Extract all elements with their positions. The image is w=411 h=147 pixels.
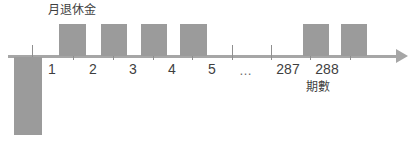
period-label: 288 [312, 60, 342, 78]
period-label: 4 [162, 60, 182, 78]
period-label: 3 [123, 60, 143, 78]
bar [59, 24, 86, 56]
bar [341, 24, 367, 56]
ellipsis-label: … [233, 62, 259, 80]
cash-flow-diagram: 月退休金 12345287288… 期數 [0, 0, 411, 147]
period-label: 287 [273, 60, 303, 78]
axis-tick [271, 45, 272, 60]
x-axis-title: 期數 [306, 79, 330, 95]
bar [101, 24, 127, 56]
series-label: 月退休金 [48, 2, 96, 18]
bar [180, 24, 207, 56]
period-label: 1 [42, 60, 62, 78]
bar [303, 24, 329, 56]
axis-tick [232, 45, 233, 60]
period-label: 2 [83, 60, 103, 78]
timeline-axis-arrow-icon [396, 49, 408, 63]
bar [141, 24, 167, 56]
period-label: 5 [202, 60, 222, 78]
bar [14, 57, 42, 135]
